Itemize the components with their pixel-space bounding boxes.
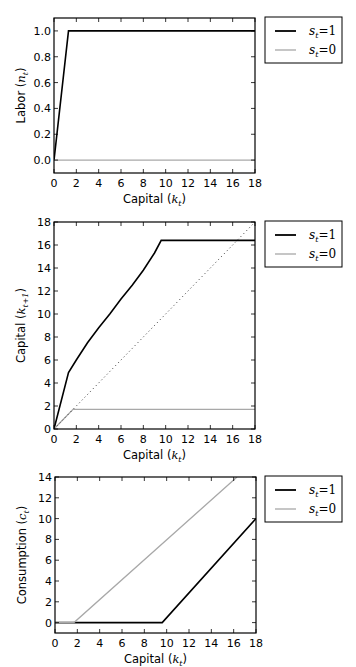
x-tick-label: 12 xyxy=(181,177,195,190)
x-tick-label: 16 xyxy=(226,177,240,190)
legend-label-s1: st=1 xyxy=(309,228,336,244)
x-tick-label: 2 xyxy=(74,637,81,650)
y-tick-label: 0 xyxy=(44,423,51,436)
series-s1-line xyxy=(55,519,256,623)
y-tick-label: 8 xyxy=(45,533,52,546)
x-tick-label: 8 xyxy=(141,637,148,650)
legend: st=1st=0 xyxy=(265,221,342,267)
axes-frame xyxy=(54,18,255,173)
y-tick-label: 12 xyxy=(38,492,52,505)
legend-label-s0: st=0 xyxy=(309,247,336,263)
y-tick-label: 4 xyxy=(44,377,51,390)
x-tick-label: 2 xyxy=(73,177,80,190)
legend: st=1st=0 xyxy=(265,17,342,63)
plot-area xyxy=(54,222,255,429)
series-s1-line xyxy=(54,240,255,429)
x-tick-label: 10 xyxy=(159,177,173,190)
x-tick-label: 10 xyxy=(160,637,174,650)
y-tick-label: 0.6 xyxy=(34,77,52,90)
y-tick-label: 14 xyxy=(38,471,52,484)
x-tick-label: 4 xyxy=(95,433,102,446)
x-tick-label: 0 xyxy=(51,433,58,446)
y-tick-label: 2 xyxy=(44,400,51,413)
series-s0-line xyxy=(54,409,255,429)
x-tick-label: 2 xyxy=(73,433,80,446)
x-tick-label: 18 xyxy=(249,637,263,650)
y-tick-label: 0 xyxy=(45,617,52,630)
y-axis-label: Consumption (ct) xyxy=(15,506,31,604)
x-tick-label: 12 xyxy=(181,433,195,446)
plot-area xyxy=(55,477,256,623)
y-tick-label: 14 xyxy=(37,262,51,275)
axes-frame xyxy=(55,477,256,633)
x-axis-label: Capital (kt) xyxy=(123,192,186,208)
y-tick-label: 10 xyxy=(37,308,51,321)
labor-chart: 0246810121416180.00.20.40.60.81.0Capital… xyxy=(14,17,342,208)
capital-next-chart: 024681012141618024681012141618Capital (k… xyxy=(14,216,342,464)
y-tick-label: 1.0 xyxy=(34,25,52,38)
x-tick-label: 0 xyxy=(51,177,58,190)
y-tick-label: 4 xyxy=(45,575,52,588)
x-tick-label: 14 xyxy=(203,433,217,446)
x-tick-label: 0 xyxy=(52,637,59,650)
x-tick-label: 6 xyxy=(118,433,125,446)
y-tick-label: 10 xyxy=(38,513,52,526)
y-tick-label: 6 xyxy=(44,354,51,367)
x-tick-label: 8 xyxy=(140,433,147,446)
plot-area xyxy=(54,31,255,160)
y-axis-label: Capital (kt+1) xyxy=(14,288,30,363)
y-tick-label: 16 xyxy=(37,239,51,252)
legend-label-s1: st=1 xyxy=(309,483,336,499)
x-axis-label: Capital (kt) xyxy=(123,448,186,464)
x-tick-label: 18 xyxy=(248,433,262,446)
x-tick-label: 18 xyxy=(248,177,262,190)
legend-label-s1: st=1 xyxy=(309,24,336,40)
legend-label-s0: st=0 xyxy=(309,502,336,518)
x-tick-label: 16 xyxy=(227,637,241,650)
y-tick-label: 0.0 xyxy=(34,154,52,167)
x-tick-label: 4 xyxy=(95,177,102,190)
series-s0-line xyxy=(55,477,237,623)
y-tick-label: 18 xyxy=(37,216,51,229)
x-tick-label: 6 xyxy=(119,637,126,650)
y-tick-label: 2 xyxy=(45,596,52,609)
figure: 0246810121416180.00.20.40.60.81.0Capital… xyxy=(0,0,356,667)
y-axis-label: Labor (nt) xyxy=(14,68,30,124)
x-tick-label: 14 xyxy=(203,177,217,190)
y-tick-label: 8 xyxy=(44,331,51,344)
x-tick-label: 12 xyxy=(182,637,196,650)
consumption-chart: 02468101214161802468101214Capital (kt)Co… xyxy=(15,471,342,667)
y-tick-label: 12 xyxy=(37,285,51,298)
y-tick-label: 0.8 xyxy=(34,51,52,64)
x-tick-label: 14 xyxy=(204,637,218,650)
x-tick-label: 6 xyxy=(118,177,125,190)
x-tick-label: 4 xyxy=(96,637,103,650)
x-tick-label: 8 xyxy=(140,177,147,190)
x-tick-label: 10 xyxy=(159,433,173,446)
legend-label-s0: st=0 xyxy=(309,43,336,59)
y-tick-label: 0.4 xyxy=(34,102,52,115)
y-tick-label: 6 xyxy=(45,554,52,567)
series-s1-line xyxy=(54,31,255,160)
legend: st=1st=0 xyxy=(265,476,342,522)
y-tick-label: 0.2 xyxy=(34,128,52,141)
x-tick-label: 16 xyxy=(226,433,240,446)
x-axis-label: Capital (kt) xyxy=(124,652,187,667)
